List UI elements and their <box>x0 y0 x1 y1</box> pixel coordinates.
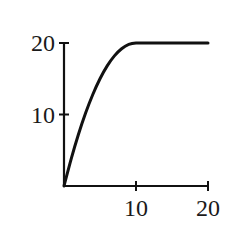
x-tick-label: 20 <box>196 195 220 221</box>
y-tick-label: 20 <box>31 30 55 56</box>
line-chart: 1020 1020 <box>0 0 235 229</box>
y-tick-label: 10 <box>31 102 55 128</box>
data-line <box>64 43 208 186</box>
x-tick-label: 10 <box>124 195 148 221</box>
